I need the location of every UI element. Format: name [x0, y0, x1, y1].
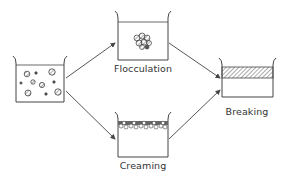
arrow-flocculation-to-breaking: [169, 43, 220, 78]
arrow-emulsion-to-creaming: [66, 91, 115, 139]
floc-cluster: [134, 33, 152, 50]
emulsion-diagram: [0, 0, 286, 178]
arrow-emulsion-to-flocculation: [66, 43, 115, 78]
label-creaming: Creaming: [120, 160, 167, 171]
beaker-breaking: [219, 58, 276, 97]
droplets: [20, 69, 61, 96]
label-flocculation: Flocculation: [114, 63, 172, 74]
beaker-flocculation: [115, 11, 171, 60]
label-breaking: Breaking: [226, 106, 269, 117]
beaker-emulsion: [13, 56, 67, 102]
beaker-creaming: [115, 112, 171, 157]
arrow-creaming-to-breaking: [169, 90, 220, 139]
